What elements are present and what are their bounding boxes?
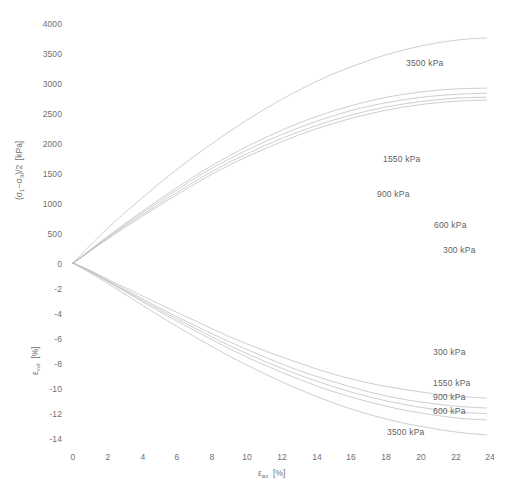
xtick-20: 20 <box>406 452 436 462</box>
ytick-500: 500 <box>20 229 62 239</box>
upper-curve-group <box>73 38 487 263</box>
y-axis-title-lower-unit: [%] <box>30 346 40 358</box>
y-axis-title-lower: εvol [%] <box>30 346 41 375</box>
xtick-0: 0 <box>58 452 88 462</box>
ytick-0: 0 <box>20 259 62 269</box>
ytick-neg10: -10 <box>20 384 62 394</box>
series-line-lower-600-kpa <box>73 263 487 420</box>
ytick-neg14: -14 <box>20 434 62 444</box>
x-axis-title: εax [%] <box>258 468 285 479</box>
ytick-neg12: -12 <box>20 409 62 419</box>
xtick-2: 2 <box>93 452 123 462</box>
y-axis-title-upper-unit: [kPa] <box>14 141 24 160</box>
series-line-upper-1550-kpa <box>73 88 487 263</box>
xtick-24: 24 <box>475 452 505 462</box>
lower-curve-group <box>73 263 487 435</box>
ytick-neg6: -6 <box>20 334 62 344</box>
y-axis-title-upper-mid: −σ <box>14 178 24 188</box>
xtick-18: 18 <box>371 452 401 462</box>
ytick-1500: 1500 <box>20 169 62 179</box>
plot-canvas <box>0 0 509 494</box>
y-axis-title-upper-suffix: )/2 <box>14 165 24 175</box>
annotation-lower-1550kpa: 1550 kPa <box>433 378 471 388</box>
xtick-14: 14 <box>302 452 332 462</box>
xtick-10: 10 <box>232 452 262 462</box>
ytick-3500: 3500 <box>20 49 62 59</box>
annotation-lower-600kpa: 600 kPa <box>433 406 466 416</box>
annotation-upper-900kpa: 900 kPa <box>377 189 410 199</box>
series-line-upper-600-kpa <box>73 97 487 263</box>
xtick-8: 8 <box>197 452 227 462</box>
chart-figure: 4000 3500 3000 2500 2000 1500 1000 500 0… <box>0 0 509 494</box>
ytick-3000: 3000 <box>20 79 62 89</box>
y-axis-title-sub-1: 1 <box>18 188 25 191</box>
xtick-4: 4 <box>128 452 158 462</box>
series-line-lower-1550-kpa <box>73 263 487 408</box>
series-line-lower-300-kpa <box>73 263 487 398</box>
ytick-2500: 2500 <box>20 109 62 119</box>
ytick-neg8: -8 <box>20 359 62 369</box>
annotation-upper-300kpa: 300 kPa <box>443 245 476 255</box>
y-axis-title-upper-prefix: (σ <box>14 192 24 200</box>
xtick-16: 16 <box>336 452 366 462</box>
series-line-lower-900-kpa <box>73 263 487 414</box>
xtick-22: 22 <box>441 452 471 462</box>
y-axis-title-sub-3: 3 <box>18 175 25 178</box>
xtick-12: 12 <box>267 452 297 462</box>
annotation-upper-3500kpa: 3500 kPa <box>406 58 444 68</box>
annotation-lower-900kpa: 900 kPa <box>433 392 466 402</box>
ytick-neg4: -4 <box>20 309 62 319</box>
series-line-lower-3500-kpa <box>73 263 487 435</box>
ytick-4000: 4000 <box>20 19 62 29</box>
annotation-lower-300kpa: 300 kPa <box>433 347 466 357</box>
annotation-lower-3500kpa: 3500 kPa <box>387 427 425 437</box>
ytick-neg2: -2 <box>20 284 62 294</box>
y-axis-title-upper: (σ1−σ3)/2 [kPa] <box>14 141 25 200</box>
x-axis-title-sub: ax <box>262 472 269 479</box>
annotation-upper-1550kpa: 1550 kPa <box>383 154 421 164</box>
y-axis-title-lower-symbol: ε <box>30 371 40 375</box>
annotation-upper-600kpa: 600 kPa <box>434 220 467 230</box>
x-axis-title-unit: [%] <box>273 468 285 478</box>
ytick-2000: 2000 <box>20 139 62 149</box>
y-axis-title-lower-sub: vol <box>34 363 41 371</box>
ytick-1000: 1000 <box>20 199 62 209</box>
series-line-upper-300-kpa <box>73 100 487 263</box>
xtick-6: 6 <box>162 452 192 462</box>
series-line-upper-900-kpa <box>73 93 487 263</box>
series-line-upper-3500-kpa <box>73 38 487 263</box>
